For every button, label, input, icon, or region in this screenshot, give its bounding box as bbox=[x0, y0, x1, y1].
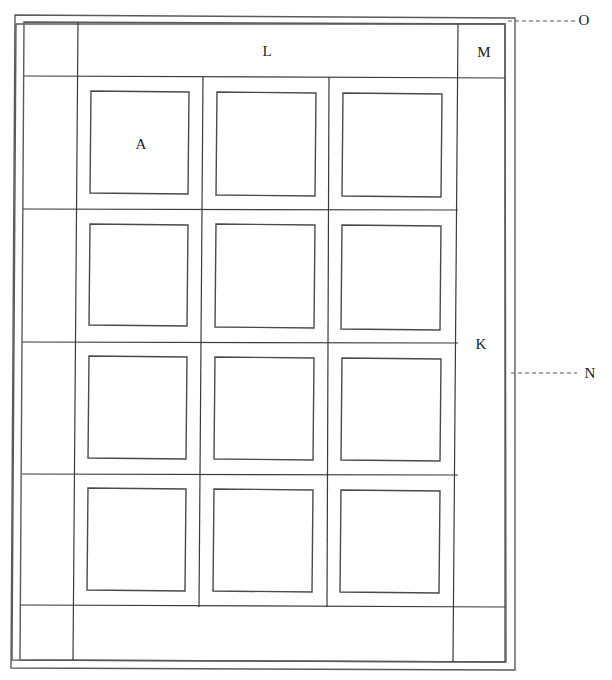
quilt-layout-diagram: AKLMNO bbox=[0, 0, 612, 680]
quilt-block-r3c2 bbox=[214, 357, 314, 460]
quilt-block-r1c3 bbox=[342, 93, 442, 197]
quilt-block-r4c2 bbox=[213, 489, 313, 592]
quilt-block-r2c2 bbox=[215, 224, 315, 328]
vertical-seam-3 bbox=[327, 77, 329, 607]
quilt-block-r2c3 bbox=[341, 225, 441, 330]
horizontal-seam-4 bbox=[22, 474, 458, 475]
quilt-block-r3c3 bbox=[341, 358, 441, 461]
vertical-seam-1 bbox=[73, 22, 78, 660]
quilt-block-r4c1 bbox=[87, 488, 186, 591]
label-o: O bbox=[579, 12, 590, 28]
sashing-grid bbox=[20, 22, 505, 662]
label-l: L bbox=[262, 43, 271, 59]
quilt-block-r2c1 bbox=[89, 224, 188, 326]
quilt-block-r4c3 bbox=[340, 490, 440, 593]
horizontal-seam-2 bbox=[23, 209, 458, 210]
label-n: N bbox=[585, 365, 596, 381]
label-a: A bbox=[136, 136, 147, 152]
label-m: M bbox=[477, 44, 490, 60]
leader-lines bbox=[508, 21, 577, 373]
horizontal-seam-3 bbox=[22, 342, 458, 343]
quilt-block-r1c2 bbox=[216, 92, 316, 196]
quilt-block-r3c1 bbox=[88, 356, 187, 459]
label-k: K bbox=[476, 336, 487, 352]
horizontal-seam-5 bbox=[20, 605, 505, 607]
horizontal-seam-1 bbox=[24, 76, 505, 78]
